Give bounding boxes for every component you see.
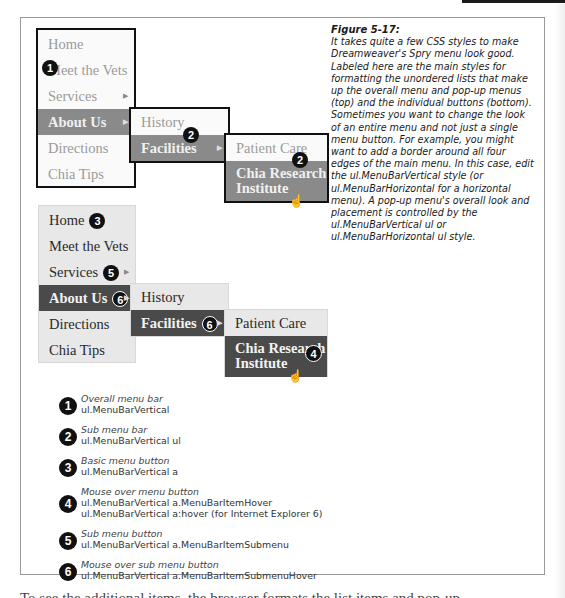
menu-item-label: About Us: [49, 290, 107, 306]
legend-selector: ul.MenuBarVertical ul: [81, 435, 359, 446]
legend-entry-5: 5 Sub menu button ul.MenuBarVertical a.M…: [59, 528, 359, 550]
legend-label: Mouse over sub menu button: [81, 559, 359, 570]
submenu-arrow-icon: ▶: [123, 109, 128, 135]
menu-item-label: Institute: [236, 181, 327, 196]
page-header-bar: [462, 0, 565, 3]
legend-selector: ul.MenuBarVertical a.MenuBarItemHover: [81, 497, 359, 508]
menu-item-label: Services: [49, 264, 98, 280]
menu-item-meet-the-vets[interactable]: Meet the Vets: [39, 233, 135, 259]
menu-item-services[interactable]: Services▶: [38, 83, 134, 109]
submenu-arrow-icon: ▶: [217, 135, 222, 161]
menu-item-chia-tips[interactable]: Chia Tips: [38, 161, 134, 187]
legend-label: Sub menu button: [81, 528, 359, 539]
callout-badge-2: 2: [183, 127, 199, 143]
legend-selector: ul.MenuBarVertical a.MenuBarItemSubmenuH…: [81, 570, 359, 581]
legend-selector: ul.MenuBarVertical a.MenuBarItemSubmenu: [81, 539, 359, 550]
legend-badge: 1: [59, 397, 77, 415]
top-subsub-menu: Patient Care Chia Research Institute: [224, 133, 329, 203]
callout-badge-2b: 2: [292, 152, 308, 168]
menu-item-label: Home: [48, 36, 83, 52]
figure-caption: Figure 5-17: It takes quite a few CSS st…: [331, 24, 536, 244]
submenu-arrow-icon: ▶: [123, 83, 128, 109]
legend-label: Mouse over menu button: [81, 486, 359, 497]
callout-badge-5: 5: [103, 265, 119, 281]
legend-selector: ul.MenuBarVertical a: [81, 466, 359, 477]
callout-badge-6: 6: [202, 316, 218, 332]
menu-item-label: Chia Tips: [48, 166, 104, 182]
menu-item-label: Chia Research: [236, 166, 327, 181]
menu-item-label: Directions: [49, 316, 109, 332]
submenu-item-facilities[interactable]: Facilities▶: [131, 135, 228, 161]
legend-entry-1: 1 Overall menu bar ul.MenuBarVertical: [59, 393, 359, 415]
callout-badge-1: 1: [42, 60, 58, 76]
menu-item-label: Directions: [48, 140, 108, 156]
body-text-clipped: To see the additional items, the browser…: [20, 590, 471, 598]
menu-item-label: Services: [48, 88, 97, 104]
legend-label: Overall menu bar: [81, 393, 359, 404]
menu-item-about-us[interactable]: About Us6▶: [39, 285, 135, 311]
menu-item-home[interactable]: Home: [38, 31, 134, 57]
menu-item-about-us[interactable]: About Us▶: [38, 109, 134, 135]
legend-selector: ul.MenuBarVertical a:hover (for Internet…: [81, 508, 359, 519]
legend-entry-3: 3 Basic menu button ul.MenuBarVertical a: [59, 455, 359, 477]
menu-item-label: Chia Tips: [49, 342, 105, 358]
style-legend: 1 Overall menu bar ul.MenuBarVertical 2 …: [59, 393, 359, 590]
callout-badge-4: 4: [305, 345, 322, 362]
menu-item-label: Meet the Vets: [49, 238, 128, 254]
legend-entry-4: 4 Mouse over menu button ul.MenuBarVerti…: [59, 486, 359, 519]
menu-item-chia-tips[interactable]: Chia Tips: [39, 337, 135, 363]
top-sub-menu: History Facilities▶: [129, 107, 230, 163]
bottom-sub-menu: History Facilities6▶: [130, 283, 229, 337]
callout-badge-3: 3: [89, 213, 105, 229]
legend-badge: 5: [59, 532, 77, 550]
legend-label: Sub menu bar: [81, 424, 359, 435]
legend-entry-2: 2 Sub menu bar ul.MenuBarVertical ul: [59, 424, 359, 446]
menu-item-home[interactable]: Home3: [39, 207, 135, 233]
menu-item-label: Meet the Vets: [48, 62, 127, 78]
submenu-arrow-icon: ▶: [217, 310, 222, 336]
legend-entry-6: 6 Mouse over sub menu button ul.MenuBarV…: [59, 559, 359, 581]
subsub-item-patient-care[interactable]: Patient Care: [225, 310, 327, 336]
legend-badge: 4: [59, 495, 77, 513]
bottom-subsub-menu: Patient Care Chia Research Institute: [224, 309, 328, 377]
submenu-arrow-icon: ▶: [124, 259, 129, 285]
menu-item-label: About Us: [48, 114, 106, 130]
submenu-item-history[interactable]: History: [131, 284, 228, 310]
legend-badge: 2: [59, 428, 77, 446]
menu-item-services[interactable]: Services5▶: [39, 259, 135, 285]
menu-item-directions[interactable]: Directions: [39, 311, 135, 337]
legend-label: Basic menu button: [81, 455, 359, 466]
figure-caption-text: It takes quite a few CSS styles to make …: [331, 36, 534, 242]
bottom-main-menu: Home3 Meet the Vets Services5▶ About Us6…: [38, 205, 136, 363]
menu-item-label: History: [141, 289, 185, 305]
figure-title: Figure 5-17:: [331, 24, 536, 36]
submenu-arrow-icon: ▶: [124, 285, 129, 311]
legend-badge: 3: [59, 459, 77, 477]
subsub-item-chia-research-institute[interactable]: Chia Research Institute: [226, 161, 327, 201]
legend-badge: 6: [59, 563, 77, 581]
submenu-item-history[interactable]: History: [131, 109, 228, 135]
page-edge-shadow: [555, 4, 565, 598]
menu-item-label: History: [141, 114, 185, 130]
menu-item-label: Patient Care: [235, 315, 306, 331]
submenu-item-facilities[interactable]: Facilities6▶: [131, 310, 228, 336]
legend-selector: ul.MenuBarVertical: [81, 404, 359, 415]
top-main-menu: Home Meet the Vets Services▶ About Us▶ D…: [36, 28, 136, 188]
menu-item-label: Facilities: [141, 315, 197, 331]
pointer-cursor-icon: ☝: [289, 194, 304, 208]
subsub-item-patient-care[interactable]: Patient Care: [226, 135, 327, 161]
menu-item-directions[interactable]: Directions: [38, 135, 134, 161]
menu-item-label: Home: [49, 212, 84, 228]
pointer-cursor-icon: ☝: [288, 369, 303, 383]
